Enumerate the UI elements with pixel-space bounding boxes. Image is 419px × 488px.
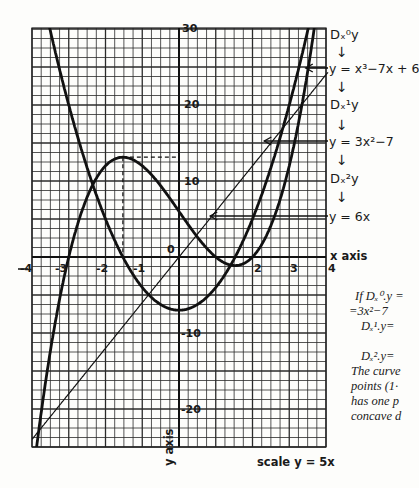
- margin-text-line: points (1·: [351, 380, 398, 393]
- x-tick-3: 3: [290, 263, 298, 274]
- y-tick-20: 20: [184, 99, 199, 110]
- margin-text-line: If Dₓ⁰.y =: [355, 290, 404, 303]
- margin-text-line: =3x²−7: [349, 305, 388, 318]
- x-tick-0: 0: [167, 244, 175, 255]
- x-tick-2: 2: [254, 263, 262, 274]
- arrow-down-icon: ↓: [336, 45, 348, 59]
- d1-label: Dₓ¹y: [330, 98, 359, 111]
- y-tick-30: 30: [182, 23, 197, 34]
- function-quadratic: y = 3x²−7: [329, 136, 394, 149]
- x-axis-label: x axis: [330, 251, 367, 263]
- scale-note: scale y = 5x: [257, 457, 335, 469]
- arrow-down-icon: ↓: [336, 153, 348, 167]
- margin-text-line: Dₓ².y=: [361, 350, 394, 363]
- margin-text-line: concave d: [351, 410, 401, 423]
- margin-text-line: The curve: [351, 365, 401, 378]
- arrow-down-icon: ↓: [336, 80, 348, 94]
- function-cubic: y = x³−7x + 6: [329, 63, 419, 76]
- y-tick-neg20: -20: [181, 404, 201, 415]
- y-tick-10: 10: [184, 176, 199, 187]
- d0-label: Dₓ⁰y: [330, 28, 359, 41]
- arrow-down-icon: ↓: [336, 118, 348, 132]
- arrow-down-icon: ↓: [336, 190, 348, 204]
- y-tick-neg10: -10: [181, 328, 201, 339]
- x-tick-neg4: -4: [20, 263, 32, 274]
- x-tick-4: 4: [328, 263, 336, 274]
- x-tick-neg2: -2: [96, 263, 108, 274]
- d2-label: Dₓ²y: [330, 172, 359, 185]
- y-axis-label: y axis: [164, 429, 176, 466]
- function-linear: y = 6x: [329, 211, 370, 224]
- x-tick-neg3: -3: [55, 263, 67, 274]
- margin-text-line: has one p: [351, 395, 399, 408]
- margin-text-line: Dₓ¹.y=: [361, 320, 394, 333]
- x-tick-neg1: -1: [133, 263, 145, 274]
